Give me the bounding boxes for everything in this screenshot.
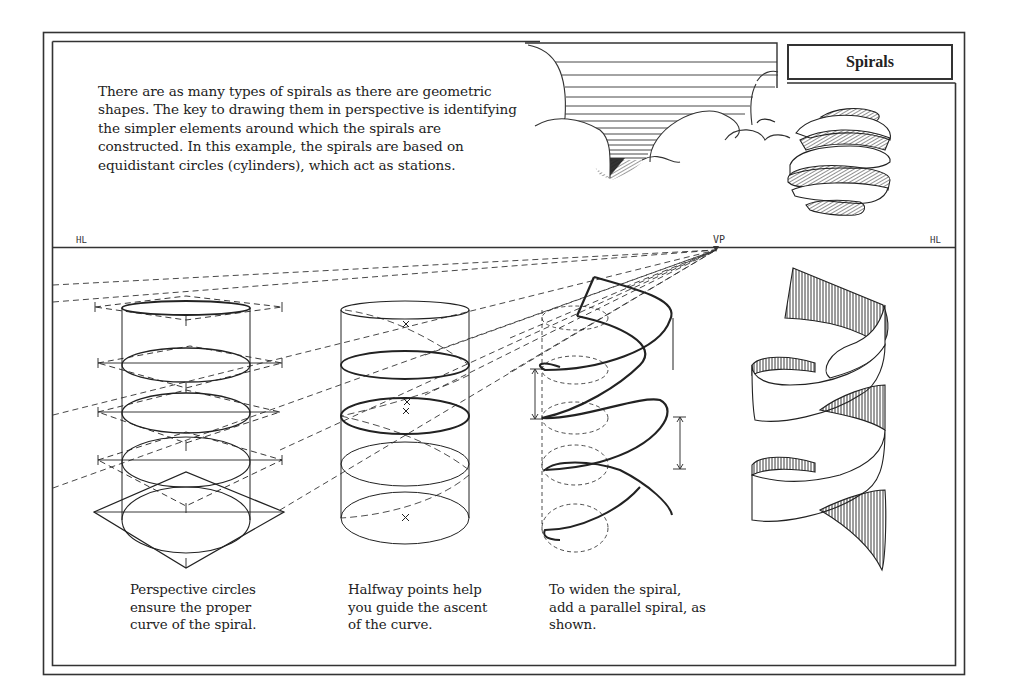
vanishing-point-label: VP [713, 234, 725, 245]
caption-line: you guide the ascent [348, 599, 487, 617]
perspective-circles-illustration [94, 296, 284, 568]
intro-line: equidistant circles (cylinders), which a… [98, 156, 538, 174]
halfway-points-illustration [341, 301, 469, 544]
caption-line: Perspective circles [130, 581, 256, 599]
cloud-funnel-illustration [525, 43, 790, 180]
intro-paragraph: There are as many types of spirals as th… [98, 82, 538, 174]
intro-line: constructed. In this example, the spiral… [98, 137, 538, 155]
caption-widened-spiral: To widen the spiral, add a parallel spir… [549, 581, 706, 634]
intro-line: the simpler elements around which the sp… [98, 119, 538, 137]
caption-line: To widen the spiral, [549, 581, 706, 599]
widened-spiral-illustration [530, 277, 686, 552]
horizon-label-left: HL [76, 235, 87, 245]
page-title: Spirals [846, 53, 894, 71]
intro-line: There are as many types of spirals as th… [98, 82, 538, 100]
caption-line: Halfway points help [348, 581, 487, 599]
intro-line: shapes. The key to drawing them in persp… [98, 100, 538, 118]
caption-line: shown. [549, 616, 706, 634]
caption-halfway-points: Halfway points help you guide the ascent… [348, 581, 487, 634]
horizon-label-right: HL [930, 235, 941, 245]
caption-line: add a parallel spiral, as [549, 599, 706, 617]
spiral-sphere-illustration [757, 109, 890, 216]
caption-line: of the curve. [348, 616, 487, 634]
finished-ribbon-spiral-illustration [752, 268, 888, 570]
title-box: Spirals [787, 44, 953, 80]
caption-perspective-circles: Perspective circles ensure the proper cu… [130, 581, 256, 634]
caption-line: ensure the proper [130, 599, 256, 617]
caption-line: curve of the spiral. [130, 616, 256, 634]
